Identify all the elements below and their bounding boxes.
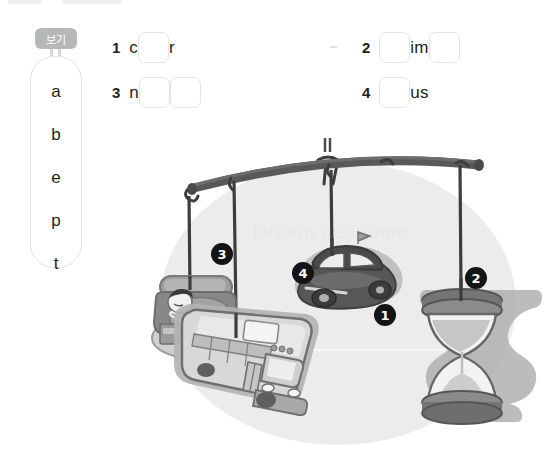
quiz-item-2-blank-2[interactable] [429, 32, 460, 63]
quiz-dot-artifact [330, 46, 337, 48]
badge-1: 1 [374, 304, 396, 326]
word-bank-letter-e[interactable]: e [51, 169, 60, 186]
quiz-item-3-prefix: n [129, 83, 139, 103]
quiz-item-3-blank-1[interactable] [139, 77, 170, 108]
word-bank-letter-b[interactable]: b [51, 126, 60, 143]
bar-cap-left [187, 183, 197, 195]
badge-1-label: 1 [380, 308, 389, 323]
word-bank-letter-a[interactable]: a [51, 83, 60, 100]
quiz-row-2: 3 n 4 us [112, 77, 548, 108]
word-bank-letter-t[interactable]: t [54, 255, 59, 272]
quiz-item-2-number: 2 [362, 39, 370, 56]
quiz-item-1-blank-1[interactable] [138, 32, 169, 63]
string-4 [234, 181, 236, 313]
badge-3: 3 [211, 243, 233, 265]
quiz-item-1-suffix: r [169, 38, 175, 58]
badge-3-label: 3 [217, 247, 226, 262]
quiz-item-1-prefix: c [129, 38, 138, 58]
top-artifact-left [8, 0, 42, 4]
quiz-item-3-number: 3 [112, 84, 120, 101]
ceiling-cord [325, 138, 330, 152]
badge-4-label: 4 [298, 266, 307, 281]
quiz-item-1-number: 1 [112, 39, 120, 56]
quiz-item-4-number: 4 [362, 84, 370, 101]
word-bank: 보기 a b e p t [30, 28, 82, 268]
badge-2: 2 [465, 267, 487, 289]
word-bank-tag-label: 보기 [46, 31, 67, 47]
quiz-grid: 1 c r 2 im 3 n 4 us [112, 32, 548, 122]
illustration-mobile: Dream gearjumo [148, 138, 553, 458]
quiz-item-4-suffix: us [410, 83, 428, 103]
quiz-item-2: 2 im [362, 32, 548, 63]
quiz-item-4-blank-1[interactable] [379, 77, 410, 108]
quiz-item-1: 1 c r [112, 32, 362, 63]
word-bank-tag: 보기 [35, 28, 77, 49]
top-artifact-right [62, 0, 122, 4]
string-2 [460, 165, 461, 290]
word-bank-card: a b e p t [30, 56, 82, 268]
badge-2-label: 2 [471, 271, 480, 286]
quiz-item-4: 4 us [362, 77, 548, 108]
badge-4: 4 [292, 262, 314, 284]
word-bank-letter-p[interactable]: p [51, 212, 60, 229]
bar-cap-right [474, 159, 484, 171]
quiz-item-3-blank-2[interactable] [170, 77, 201, 108]
quiz-item-2-middle: im [410, 38, 428, 58]
quiz-item-3: 3 n [112, 77, 362, 108]
quiz-item-2-blank-1[interactable] [379, 32, 410, 63]
